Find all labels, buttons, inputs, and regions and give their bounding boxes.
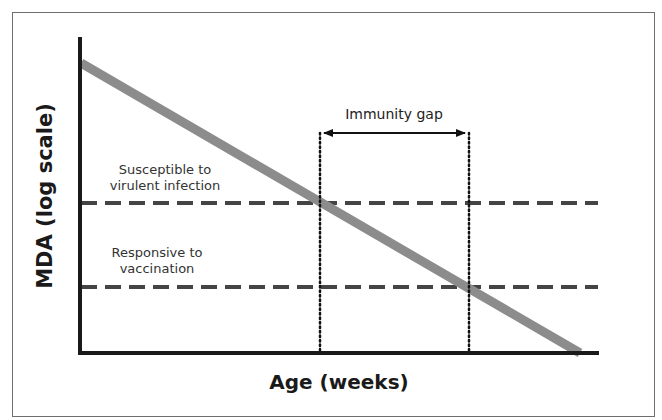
x-axis-label: Age (weeks) [269,370,408,394]
responsive-label-line2: vaccination [112,261,203,277]
responsive-zone-label: Responsive to vaccination [112,245,203,277]
diagram-canvas [0,0,662,420]
y-axis-label: MDA (log scale) [33,103,57,289]
mda-decline-line [81,63,580,353]
susceptible-label-line2: virulent infection [110,178,220,194]
responsive-label-line1: Responsive to [112,245,203,261]
susceptible-label-line1: Susceptible to [110,162,220,178]
susceptible-zone-label: Susceptible to virulent infection [110,162,220,194]
immunity-gap-label: Immunity gap [345,106,443,122]
